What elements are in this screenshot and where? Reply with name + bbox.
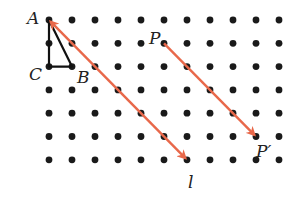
label-p-prime: P′ bbox=[255, 141, 271, 161]
grid-dot bbox=[92, 40, 99, 47]
grid-dot bbox=[69, 110, 76, 117]
label-a: A bbox=[25, 8, 39, 28]
label-l: l bbox=[188, 172, 193, 192]
grid-dot bbox=[253, 40, 260, 47]
grid-dot bbox=[115, 40, 122, 47]
grid-dot bbox=[138, 133, 145, 140]
grid-dot bbox=[253, 63, 260, 70]
grid-dot bbox=[207, 133, 214, 140]
grid-dot bbox=[69, 17, 76, 24]
triangle-outline bbox=[49, 20, 72, 67]
grid-dot bbox=[276, 40, 283, 47]
grid-dot bbox=[207, 40, 214, 47]
grid-dot bbox=[92, 110, 99, 117]
grid-dot bbox=[276, 17, 283, 24]
translation-diagram: A C B P P′ l bbox=[0, 0, 304, 197]
label-b: B bbox=[76, 67, 90, 87]
grid-dot bbox=[184, 110, 191, 117]
grid-dot bbox=[115, 17, 122, 24]
grid-dot bbox=[69, 156, 76, 163]
grid-dot bbox=[276, 63, 283, 70]
grid-dot bbox=[46, 87, 53, 94]
grid-dot bbox=[207, 17, 214, 24]
dot-grid bbox=[46, 17, 283, 164]
grid-dot bbox=[138, 87, 145, 94]
grid-dot bbox=[207, 110, 214, 117]
grid-dot bbox=[230, 133, 237, 140]
grid-dot bbox=[184, 40, 191, 47]
grid-dot bbox=[69, 87, 76, 94]
label-c: C bbox=[29, 64, 42, 84]
grid-dot bbox=[276, 156, 283, 163]
grid-dot bbox=[138, 63, 145, 70]
grid-dot bbox=[92, 133, 99, 140]
grid-dot bbox=[46, 156, 53, 163]
grid-dot bbox=[184, 17, 191, 24]
grid-dot bbox=[161, 110, 168, 117]
grid-dot bbox=[115, 110, 122, 117]
grid-dot bbox=[138, 156, 145, 163]
grid-dot bbox=[230, 87, 237, 94]
grid-dot bbox=[253, 110, 260, 117]
grid-dot bbox=[230, 17, 237, 24]
grid-dot bbox=[276, 110, 283, 117]
grid-dot bbox=[161, 17, 168, 24]
label-p: P bbox=[148, 28, 161, 48]
grid-dot bbox=[161, 63, 168, 70]
grid-dot bbox=[92, 17, 99, 24]
vector-pp-prime-arrow bbox=[164, 43, 255, 135]
grid-dot bbox=[276, 133, 283, 140]
grid-dot bbox=[46, 133, 53, 140]
grid-dot bbox=[207, 156, 214, 163]
diagram-canvas: A C B P P′ l bbox=[0, 0, 304, 197]
grid-dot bbox=[184, 133, 191, 140]
grid-dot bbox=[92, 87, 99, 94]
grid-dot bbox=[138, 17, 145, 24]
grid-dot bbox=[230, 40, 237, 47]
grid-dot bbox=[253, 17, 260, 24]
grid-dot bbox=[253, 87, 260, 94]
grid-dot bbox=[115, 133, 122, 140]
grid-dot bbox=[230, 63, 237, 70]
grid-dot bbox=[115, 63, 122, 70]
grid-dot bbox=[46, 110, 53, 117]
grid-dot bbox=[207, 63, 214, 70]
grid-dot bbox=[69, 133, 76, 140]
grid-dot bbox=[138, 40, 145, 47]
grid-dot bbox=[161, 87, 168, 94]
grid-dot bbox=[184, 87, 191, 94]
grid-dot bbox=[92, 156, 99, 163]
grid-dot bbox=[276, 87, 283, 94]
triangle-abc bbox=[49, 20, 72, 67]
grid-dot bbox=[115, 156, 122, 163]
grid-dot bbox=[161, 156, 168, 163]
grid-dot bbox=[230, 156, 237, 163]
